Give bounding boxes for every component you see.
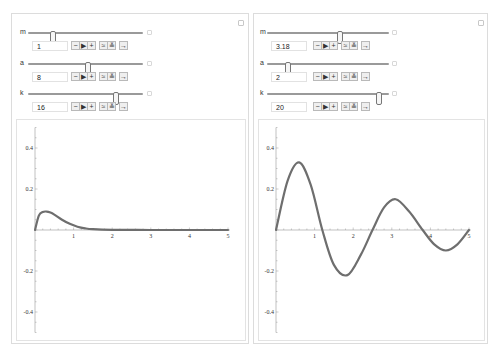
- y-tick-label: -0.4: [24, 309, 34, 315]
- value-field-k[interactable]: 16: [32, 102, 68, 112]
- x-tick-label: 1: [313, 233, 316, 239]
- manipulate-panel-right: m 3.18 − ▶ + ≈ ≚ → a 2 − ▶ +: [253, 13, 488, 344]
- slider-k[interactable]: [28, 93, 143, 95]
- data-curve: [276, 162, 469, 275]
- slider-a[interactable]: [267, 63, 389, 65]
- animator-buttons: − ▶ + ≈ ≚ →: [71, 41, 127, 51]
- control-k: k: [254, 88, 489, 100]
- expand-controls-icon[interactable]: [392, 91, 397, 96]
- slider-m[interactable]: [267, 32, 389, 34]
- animator-buttons: − ▶ + ≈ ≚ →: [313, 41, 369, 51]
- direction-button[interactable]: →: [361, 102, 370, 111]
- animator-buttons: − ▶ + ≈ ≚ →: [71, 72, 127, 82]
- control-label-a: a: [260, 59, 264, 66]
- x-tick-label: 2: [111, 233, 114, 239]
- y-tick-label: 0.4: [26, 145, 34, 151]
- animator-buttons: − ▶ + ≈ ≚ →: [71, 102, 127, 112]
- control-label-a: a: [20, 59, 24, 66]
- line-chart-right: 123450.40.2-0.2-0.4: [259, 120, 484, 340]
- value-field-a[interactable]: 2: [271, 72, 307, 82]
- expand-controls-icon[interactable]: [147, 30, 152, 35]
- line-chart-left: 123450.40.2-0.2-0.4: [17, 120, 245, 340]
- y-tick-label: 0.2: [267, 186, 275, 192]
- value-field-m[interactable]: 3.18: [271, 41, 307, 51]
- control-k-animator: 20 − ▶ + ≈ ≚ →: [254, 102, 489, 114]
- x-tick-label: 1: [72, 233, 75, 239]
- control-k-animator: 16 − ▶ + ≈ ≚ →: [12, 102, 250, 114]
- control-m: m: [254, 27, 489, 39]
- x-tick-label: 3: [149, 233, 152, 239]
- control-m-animator: 1 − ▶ + ≈ ≚ →: [12, 41, 250, 53]
- expand-controls-icon[interactable]: [147, 61, 152, 66]
- slider-a[interactable]: [28, 63, 143, 65]
- x-tick-label: 4: [188, 233, 191, 239]
- expand-controls-icon[interactable]: [392, 30, 397, 35]
- y-tick-label: 0.4: [267, 145, 275, 151]
- control-label-m: m: [260, 28, 266, 35]
- animator-buttons: − ▶ + ≈ ≚ →: [313, 102, 369, 112]
- value-field-a[interactable]: 8: [32, 72, 68, 82]
- x-tick-label: 5: [468, 233, 471, 239]
- direction-button[interactable]: →: [119, 72, 128, 81]
- direction-button[interactable]: →: [119, 102, 128, 111]
- control-label-k: k: [260, 89, 264, 96]
- manipulate-panel-left: m 1 − ▶ + ≈ ≚ → a 8 − ▶ +: [11, 13, 249, 344]
- control-a-animator: 2 − ▶ + ≈ ≚ →: [254, 72, 489, 84]
- control-a-animator: 8 − ▶ + ≈ ≚ →: [12, 72, 250, 84]
- slider-k[interactable]: [267, 93, 389, 95]
- control-a: a: [12, 58, 250, 70]
- options-icon[interactable]: [238, 20, 244, 26]
- control-label-k: k: [20, 89, 24, 96]
- direction-button[interactable]: →: [361, 72, 370, 81]
- x-tick-label: 5: [227, 233, 230, 239]
- expand-controls-icon[interactable]: [392, 61, 397, 66]
- plot-area-right: 123450.40.2-0.2-0.4: [258, 119, 485, 341]
- control-m-animator: 3.18 − ▶ + ≈ ≚ →: [254, 41, 489, 53]
- expand-controls-icon[interactable]: [147, 91, 152, 96]
- data-curve: [35, 211, 228, 230]
- control-k: k: [12, 88, 250, 100]
- y-tick-label: 0.2: [26, 186, 34, 192]
- value-field-m[interactable]: 1: [32, 41, 68, 51]
- control-m: m: [12, 27, 250, 39]
- plot-area-left: 123450.40.2-0.2-0.4: [16, 119, 246, 341]
- y-tick-label: -0.2: [265, 268, 275, 274]
- direction-button[interactable]: →: [361, 41, 370, 50]
- y-tick-label: -0.2: [24, 268, 34, 274]
- control-label-m: m: [20, 28, 26, 35]
- x-tick-label: 2: [352, 233, 355, 239]
- y-tick-label: -0.4: [265, 309, 275, 315]
- x-tick-label: 3: [390, 233, 393, 239]
- options-icon[interactable]: [478, 20, 484, 26]
- value-field-k[interactable]: 20: [271, 102, 307, 112]
- slider-m[interactable]: [28, 32, 143, 34]
- control-a: a: [254, 58, 489, 70]
- animator-buttons: − ▶ + ≈ ≚ →: [313, 72, 369, 82]
- direction-button[interactable]: →: [119, 41, 128, 50]
